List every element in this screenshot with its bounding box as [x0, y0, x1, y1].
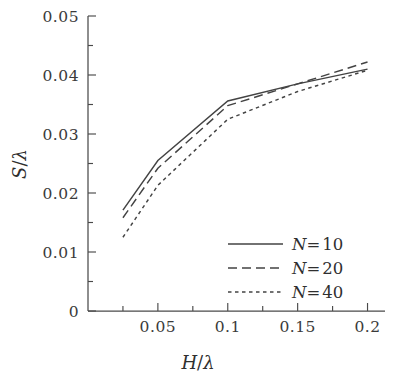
legend-label-0: N=10 — [291, 235, 343, 254]
y-tick-label: 0.02 — [42, 185, 79, 203]
y-axis-ticks — [88, 16, 96, 311]
x-axis-title: H/λ — [180, 352, 214, 373]
legend-label-2: N=40 — [291, 283, 343, 302]
x-axis-tick-labels: 0.050.10.150.2 — [140, 318, 381, 336]
x-tick-label: 0.15 — [279, 318, 316, 336]
y-tick-label: 0.05 — [42, 8, 79, 26]
y-tick-label: 0 — [69, 303, 79, 321]
y-tick-label: 0.01 — [42, 244, 79, 262]
chart-legend: N=10N=20N=40 — [228, 235, 343, 302]
legend-label-1: N=20 — [291, 259, 343, 278]
series-line-1 — [123, 62, 368, 218]
x-tick-label: 0.05 — [140, 318, 177, 336]
x-tick-label: 0.1 — [215, 318, 241, 336]
y-tick-label: 0.04 — [42, 67, 79, 85]
series-line-0 — [123, 69, 368, 210]
y-axis-tick-labels: 00.010.020.030.040.05 — [42, 8, 79, 321]
x-axis-ticks — [123, 303, 368, 311]
chart-figure: 0.050.10.150.2 00.010.020.030.040.05 N=1… — [0, 0, 397, 377]
y-axis-title: S/λ — [9, 149, 30, 179]
series-line-2 — [123, 70, 368, 237]
data-series-group — [123, 62, 368, 237]
line-chart: 0.050.10.150.2 00.010.020.030.040.05 N=1… — [0, 0, 397, 377]
y-tick-label: 0.03 — [42, 126, 79, 144]
x-tick-label: 0.2 — [354, 318, 380, 336]
